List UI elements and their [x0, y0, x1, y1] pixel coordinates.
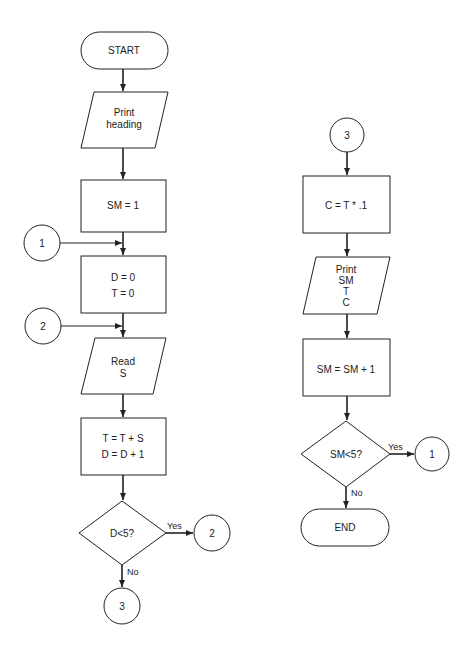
print-heading-line1: Print	[114, 107, 135, 118]
connector-2-in: 2	[25, 308, 61, 344]
init-t-label: T = 0	[112, 288, 135, 299]
increment-sm-label: SM = SM + 1	[317, 364, 376, 375]
decision-d-less-5: D<5?	[79, 501, 166, 565]
yes-label-right: Yes	[388, 442, 403, 452]
start-label: START	[108, 45, 140, 56]
connector-2-out: 2	[194, 515, 230, 551]
init-sm-process: SM = 1	[81, 180, 166, 232]
yes-label-left: Yes	[167, 521, 182, 531]
connector-1-out-label: 1	[429, 449, 435, 460]
connector-1-out: 1	[415, 437, 449, 471]
end-terminal: END	[301, 509, 389, 546]
connector-3-in: 3	[330, 118, 364, 152]
decision-sm-less-5: SM<5?	[301, 421, 390, 487]
print-results-line2: SM	[339, 275, 354, 286]
init-d-label: D = 0	[111, 272, 136, 283]
init-sm-label: SM = 1	[107, 200, 139, 211]
connector-1-in-label: 1	[39, 238, 45, 249]
end-label: END	[334, 522, 355, 533]
print-results-io: Print SM T C	[303, 257, 390, 314]
no-label-right: No	[351, 488, 363, 498]
accumulate-t-label: T = T + S	[102, 433, 143, 444]
increment-sm-process: SM = SM + 1	[303, 339, 390, 396]
connector-2-in-label: 2	[40, 321, 46, 332]
init-dt-process: D = 0 T = 0	[81, 256, 166, 313]
decision-d-label: D<5?	[110, 528, 135, 539]
read-s-io: Read S	[81, 338, 166, 394]
connector-2-out-label: 2	[209, 528, 215, 539]
connector-3-out: 3	[104, 588, 140, 624]
accumulate-process: T = T + S D = D + 1	[81, 418, 166, 475]
no-label-left: No	[127, 567, 139, 577]
decision-sm-label: SM<5?	[330, 449, 362, 460]
print-results-line1: Print	[336, 264, 357, 275]
read-label: Read	[111, 356, 135, 367]
print-results-line4: C	[342, 297, 349, 308]
compute-c-label: C = T * .1	[325, 200, 368, 211]
print-results-line3: T	[343, 286, 349, 297]
print-heading-line2: heading	[106, 119, 142, 130]
compute-c-process: C = T * .1	[303, 176, 390, 233]
connector-3-out-label: 3	[119, 601, 125, 612]
connector-1-in: 1	[24, 225, 60, 261]
accumulate-d-label: D = D + 1	[102, 449, 145, 460]
read-var-label: S	[120, 368, 127, 379]
print-heading-io: Print heading	[81, 92, 168, 148]
start-terminal: START	[81, 32, 168, 69]
flowchart: START Print heading SM = 1 1 D = 0 T = 0…	[0, 0, 472, 653]
connector-3-in-label: 3	[344, 130, 350, 141]
